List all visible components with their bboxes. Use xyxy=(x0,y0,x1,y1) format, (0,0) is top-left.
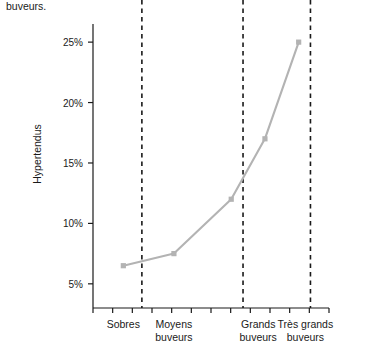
data-point-4 xyxy=(262,136,267,141)
data-point-5 xyxy=(296,40,301,45)
y-tick-label-5%: 5% xyxy=(39,278,83,289)
data-series-line xyxy=(123,42,298,266)
y-tick-label-25%: 25% xyxy=(39,37,83,48)
data-point-2 xyxy=(171,251,176,256)
y-tick-label-15%: 15% xyxy=(39,157,83,168)
y-axis-title: Hypertendus xyxy=(31,99,43,209)
x-category-label-4: Très grands buveurs xyxy=(260,318,350,344)
line-chart: Hypertendus 5%10%15%20%25% SobresMoyens … xyxy=(0,0,371,346)
x-axis-ticks xyxy=(93,308,329,313)
data-point-3 xyxy=(229,197,234,202)
y-axis-ticks xyxy=(88,42,93,284)
chart-canvas xyxy=(0,0,371,346)
y-tick-label-20%: 20% xyxy=(39,97,83,108)
data-series-markers xyxy=(121,40,302,269)
data-point-1 xyxy=(121,263,126,268)
y-tick-label-10%: 10% xyxy=(39,218,83,229)
x-category-label-2: Moyens buveurs xyxy=(129,318,219,344)
reference-lines-group xyxy=(142,0,311,308)
